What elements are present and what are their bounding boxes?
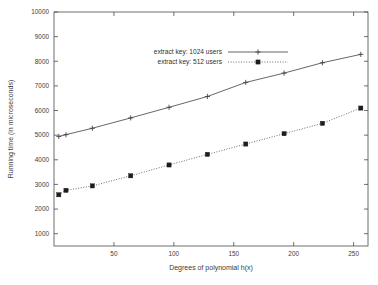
y-tick-label: 10000	[31, 8, 49, 15]
y-axis-label: Running time (in microseconds)	[7, 80, 15, 178]
legend-label-2: extract key: 512 users	[157, 58, 222, 66]
x-tick-label: 50	[110, 250, 118, 257]
y-tick-label: 7000	[35, 82, 50, 89]
legend-sample-marker-2	[256, 60, 260, 64]
x-axis-label: Degrees of polynomial h(x)	[169, 264, 253, 272]
line-chart: 1000200030004000500060007000800090001000…	[0, 0, 378, 285]
y-tick-label: 2000	[35, 205, 50, 212]
x-tick-label: 200	[288, 250, 299, 257]
y-tick-label: 9000	[35, 33, 50, 40]
chart-background	[0, 0, 378, 285]
chart-figure: 1000200030004000500060007000800090001000…	[0, 0, 378, 285]
y-tick-label: 4000	[35, 156, 50, 163]
x-tick-label: 250	[348, 250, 359, 257]
y-tick-label: 5000	[35, 131, 50, 138]
y-tick-label: 8000	[35, 58, 50, 65]
legend-label-1: extract key: 1024 users	[154, 48, 223, 56]
x-tick-label: 100	[169, 250, 180, 257]
y-tick-label: 3000	[35, 181, 50, 188]
y-tick-label: 1000	[35, 230, 50, 237]
x-tick-label: 150	[228, 250, 239, 257]
y-tick-label: 6000	[35, 107, 50, 114]
